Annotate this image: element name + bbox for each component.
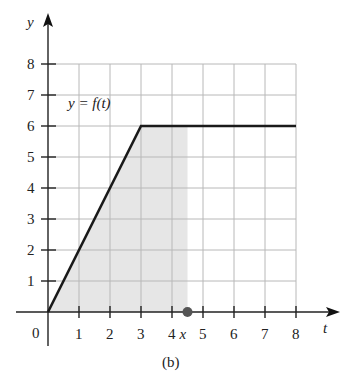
y-tick-label: 4 [27, 180, 35, 196]
y-tick-label: 8 [27, 56, 35, 72]
x-tick-label: 3 [137, 326, 145, 342]
x-tick-label: 7 [261, 326, 269, 342]
y-tick-label: 2 [27, 242, 35, 258]
area-under-curve-chart: 1234567812345678 y t 0 y = f(t) (b) x [0, 0, 359, 390]
y-tick-label: 3 [27, 211, 35, 227]
x-tick-label: 6 [230, 326, 238, 342]
x-axis-label: t [323, 320, 328, 336]
x-tick-label: 8 [292, 326, 300, 342]
x-point-marker [183, 307, 193, 317]
x-tick-label: 4 [168, 326, 176, 342]
y-tick-label: 6 [27, 118, 35, 134]
x-point-label: x [179, 326, 187, 342]
y-tick-label: 5 [27, 149, 35, 165]
y-tick-label: 1 [27, 273, 35, 289]
y-tick-label: 7 [27, 87, 35, 103]
origin-label: 0 [32, 325, 40, 341]
x-tick-label: 1 [75, 326, 83, 342]
x-tick-label: 5 [199, 326, 207, 342]
x-tick-label: 2 [106, 326, 114, 342]
y-axis-label: y [25, 14, 34, 30]
function-label: y = f(t) [66, 95, 111, 112]
figure-caption: (b) [162, 354, 180, 371]
